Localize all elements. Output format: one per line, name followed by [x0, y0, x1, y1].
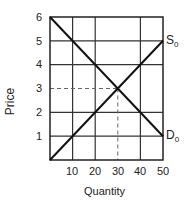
x-tick-10: 10: [62, 166, 82, 177]
y-axis-label: Price: [5, 88, 16, 115]
x-tick-30: 30: [108, 166, 128, 177]
y-tick-1: 1: [28, 131, 42, 142]
supply-curve: [50, 41, 163, 160]
supply-label: S0: [166, 35, 178, 50]
y-tick-4: 4: [28, 59, 42, 70]
x-tick-50: 50: [153, 166, 173, 177]
y-tick-5: 5: [28, 36, 42, 47]
y-tick-2: 2: [28, 107, 42, 118]
x-tick-20: 20: [85, 166, 105, 177]
x-axis-label: Quantity: [84, 186, 125, 197]
y-tick-6: 6: [28, 12, 42, 23]
demand-label: D0: [166, 130, 179, 145]
y-tick-3: 3: [28, 83, 42, 94]
x-tick-40: 40: [130, 166, 150, 177]
demand-curve: [50, 17, 163, 136]
